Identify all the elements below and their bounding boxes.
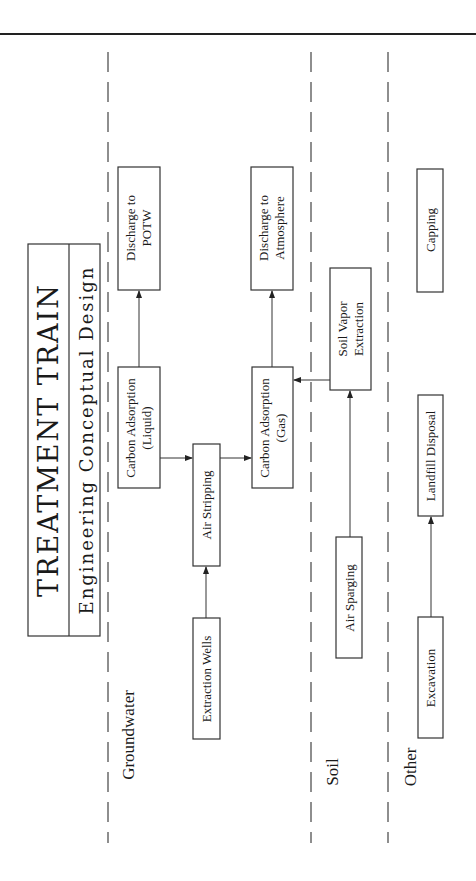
node-label: Air Stripping — [199, 470, 214, 539]
node-discharge-atmosphere: Discharge to Atmosphere — [251, 167, 293, 290]
title-block: TREATMENT TRAIN Engineering Conceptual D… — [28, 244, 100, 636]
node-label: Discharge to — [256, 195, 271, 261]
node-label: Capping — [423, 207, 438, 252]
title-subtitle: Engineering Conceptual Design — [76, 266, 97, 615]
node-label: Extraction — [351, 301, 366, 356]
node-label: Landfill Disposal — [423, 410, 438, 501]
treatment-train-diagram: TREATMENT TRAIN Engineering Conceptual D… — [0, 0, 476, 881]
node-label: Discharge to — [123, 195, 138, 261]
section-label-soil: Soil — [323, 758, 342, 786]
node-label: Extraction Wells — [199, 636, 214, 722]
node-label: POTW — [139, 209, 154, 247]
node-label: Air Sparging — [342, 564, 357, 632]
node-discharge-potw: Discharge to POTW — [118, 167, 160, 290]
node-air-sparging: Air Sparging — [336, 537, 362, 658]
node-landfill-disposal: Landfill Disposal — [418, 395, 443, 516]
node-label: (Liquid) — [139, 406, 154, 449]
node-excavation: Excavation — [418, 617, 443, 738]
node-label: Excavation — [423, 648, 438, 707]
node-carbon-adsorption-gas: Carbon Adsorption (Gas) — [252, 367, 293, 488]
node-carbon-adsorption-liquid: Carbon Adsorption (Liquid) — [118, 367, 160, 488]
node-label: Carbon Adsorption — [123, 378, 138, 478]
section-label-groundwater: Groundwater — [119, 690, 138, 780]
node-air-stripping: Air Stripping — [193, 444, 220, 566]
node-capping: Capping — [417, 169, 443, 292]
node-label: Soil Vapor — [335, 301, 350, 357]
title-main: TREATMENT TRAIN — [33, 283, 64, 597]
node-label: Carbon Adsorption — [257, 378, 272, 478]
node-extraction-wells: Extraction Wells — [193, 618, 220, 739]
section-label-other: Other — [401, 747, 420, 786]
node-label: Atmosphere — [272, 196, 287, 260]
node-label: (Gas) — [273, 414, 288, 443]
node-soil-vapor-extraction: Soil Vapor Extraction — [330, 268, 371, 390]
